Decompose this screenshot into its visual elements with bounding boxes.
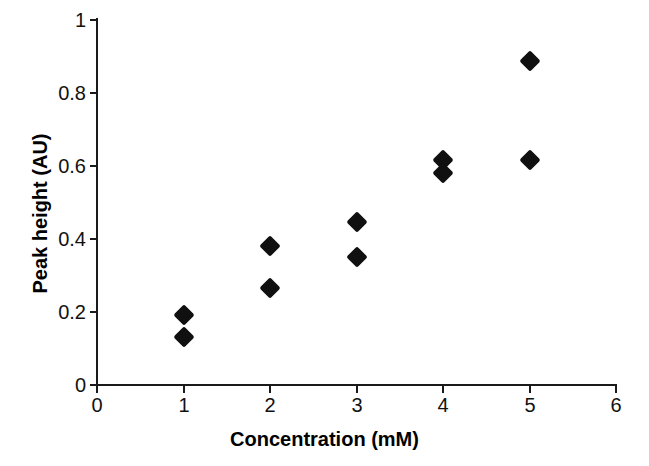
x-tick-label-1: 1: [164, 394, 204, 417]
x-tick-4: [442, 386, 444, 393]
y-tick-label-text: 0.8: [58, 82, 86, 104]
x-tick-label-3: 3: [337, 394, 377, 417]
data-point: [432, 162, 453, 183]
y-tick-0.4: [90, 238, 97, 240]
y-tick-label-0: 0: [0, 374, 86, 397]
data-point: [346, 246, 367, 267]
y-tick-label-text: 0.2: [58, 301, 86, 323]
x-tick-label-text: 6: [610, 394, 621, 416]
x-tick-2: [269, 386, 271, 393]
x-tick-label-text: 3: [351, 394, 362, 416]
x-tick-6: [615, 386, 617, 393]
y-tick-label-text: 1: [75, 9, 86, 31]
y-tick-1: [90, 19, 97, 21]
y-axis-line: [96, 18, 98, 386]
x-tick-label-5: 5: [510, 394, 550, 417]
x-tick-label-text: 2: [264, 394, 275, 416]
x-tick-5: [529, 386, 531, 393]
y-tick-0.6: [90, 165, 97, 167]
x-tick-3: [356, 386, 358, 393]
x-tick-label-text: 4: [437, 394, 448, 416]
y-tick-0.2: [90, 311, 97, 313]
data-point: [259, 277, 280, 298]
x-tick-label-text: 1: [178, 394, 189, 416]
x-tick-label-text: 5: [524, 394, 535, 416]
x-axis-title: Concentration (mM): [0, 428, 649, 451]
y-tick-0.8: [90, 92, 97, 94]
y-tick-label-text: 0.4: [58, 228, 86, 250]
x-tick-1: [183, 386, 185, 393]
scatter-chart: 0 0.2 0.4 0.6 0.8 1 0 1 2 3 4 5 6 Conc: [0, 0, 649, 466]
x-tick-label-4: 4: [423, 394, 463, 417]
y-tick-label-text: 0.6: [58, 155, 86, 177]
data-point: [259, 235, 280, 256]
x-tick-label-text: 0: [91, 394, 102, 416]
y-axis-title: Peak height (AU): [29, 84, 52, 344]
y-tick-label-1: 1: [0, 9, 86, 32]
y-tick-label-text: 0: [75, 374, 86, 396]
x-tick-label-2: 2: [250, 394, 290, 417]
data-point: [519, 50, 540, 71]
x-tick-label-0: 0: [77, 394, 117, 417]
data-point: [173, 305, 194, 326]
data-point: [173, 327, 194, 348]
x-tick-0: [96, 386, 98, 393]
x-tick-label-6: 6: [596, 394, 636, 417]
data-point: [519, 149, 540, 170]
data-point: [346, 212, 367, 233]
